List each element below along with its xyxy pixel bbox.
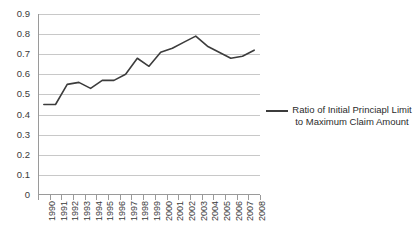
y-axis-tick-label: 0.9	[17, 9, 30, 19]
y-axis-tick-label: 0.7	[17, 49, 30, 59]
x-axis-tick-label: 1996	[118, 201, 127, 221]
y-axis-tick-label: 0.1	[17, 170, 30, 180]
x-axis-tick-label: 1997	[130, 201, 139, 221]
y-axis-tick-label: 0.8	[17, 29, 30, 39]
x-axis-tick	[155, 195, 156, 200]
x-axis-tick	[108, 195, 109, 200]
series-line-ratio	[44, 36, 254, 104]
y-axis-tick-label: 0.2	[17, 150, 30, 160]
x-axis-tick-label: 1993	[83, 201, 92, 221]
x-axis-tick	[131, 195, 132, 200]
x-axis-tick-label: 2005	[223, 201, 232, 221]
legend-label: Ratio of Initial Princiapl Limit to Maxi…	[292, 104, 412, 128]
x-axis-tick	[213, 195, 214, 200]
x-axis-tick-label: 2008	[258, 201, 267, 221]
legend: Ratio of Initial Princiapl Limit to Maxi…	[266, 104, 414, 128]
series-line-layer	[38, 14, 260, 195]
x-axis-tick	[248, 195, 249, 200]
x-axis-tick-label: 1991	[60, 201, 69, 221]
x-axis-tick	[190, 195, 191, 200]
x-axis-tick	[143, 195, 144, 200]
x-axis-tick	[260, 195, 261, 200]
y-axis-tick-label: 0	[25, 190, 30, 200]
y-axis-labels: 00.10.20.30.40.50.60.70.80.9	[0, 0, 34, 242]
x-axis-tick	[167, 195, 168, 200]
x-axis-tick-label: 2000	[165, 201, 174, 221]
x-axis-tick-label: 2003	[200, 201, 209, 221]
y-axis-tick-label: 0.4	[17, 110, 30, 120]
x-axis-tick	[237, 195, 238, 200]
x-axis-tick-label: 2001	[176, 201, 185, 221]
x-axis-tick-label: 1990	[48, 201, 57, 221]
x-axis-tick-label: 1998	[141, 201, 150, 221]
x-axis-tick	[225, 195, 226, 200]
y-axis-tick-label: 0.5	[17, 90, 30, 100]
x-axis-tick-label: 2002	[188, 201, 197, 221]
line-chart: 00.10.20.30.40.50.60.70.80.9 19901991199…	[0, 0, 414, 242]
x-axis-tick-label: 1999	[153, 201, 162, 221]
x-axis-tick-label: 1992	[71, 201, 80, 221]
x-axis-tick	[73, 195, 74, 200]
x-axis-tick	[38, 195, 39, 200]
x-axis-tick-label: 2007	[246, 201, 255, 221]
x-axis-tick-label: 1995	[106, 201, 115, 221]
x-axis-labels: 1990199119921993199419951996199719981999…	[38, 201, 260, 242]
x-axis-tick-label: 2006	[235, 201, 244, 221]
x-axis-tick	[202, 195, 203, 200]
x-axis-tick	[96, 195, 97, 200]
y-axis-tick-label: 0.3	[17, 130, 30, 140]
x-axis-tick-label: 2004	[211, 201, 220, 221]
plot-area	[38, 14, 260, 195]
legend-label-line1: Ratio of Initial Princiapl Limit	[292, 104, 411, 115]
x-axis-tick	[61, 195, 62, 200]
legend-label-line2: to Maximum Claim Amount	[295, 116, 409, 127]
x-axis-tick	[178, 195, 179, 200]
x-axis-tick	[50, 195, 51, 200]
x-axis-tick	[85, 195, 86, 200]
x-axis-tick-label: 1994	[95, 201, 104, 221]
y-axis-tick-label: 0.6	[17, 70, 30, 80]
x-axis-tick	[120, 195, 121, 200]
legend-line-swatch	[266, 110, 288, 112]
